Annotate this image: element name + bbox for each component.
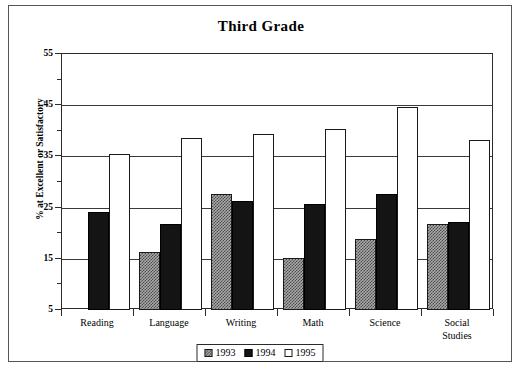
x-axis-label-reading: Reading (61, 316, 133, 329)
legend-label-1994: 1994 (256, 347, 276, 358)
x-axis-label-social-studies: Social Studies (421, 316, 493, 342)
chart-legend: 1993 1994 1995 (197, 344, 324, 362)
x-axis-group-tick (421, 309, 422, 316)
y-axis-tick-label: 35 (27, 150, 53, 160)
legend-swatch-1995-icon (285, 349, 293, 357)
bar-math-1993 (283, 258, 304, 310)
legend-item-1993: 1993 (205, 347, 236, 358)
x-axis-group-tick (349, 309, 350, 316)
bar-social-studies-1994 (448, 222, 469, 310)
x-axis-group-tick (277, 309, 278, 316)
legend-label-1995: 1995 (296, 347, 316, 358)
legend-item-1994: 1994 (245, 347, 276, 358)
bar-writing-1995 (253, 134, 274, 310)
y-axis-tick-label: 55 (27, 48, 53, 58)
bar-language-1994 (160, 224, 181, 310)
gridline (62, 105, 492, 106)
page-title: Third Grade (9, 18, 513, 35)
bar-language-1995 (181, 138, 202, 310)
bar-science-1993 (355, 239, 376, 310)
bar-writing-1993 (211, 194, 232, 310)
x-axis-group-tick (133, 309, 134, 316)
y-axis-tick-label: 5 (27, 304, 53, 314)
bar-math-1994 (304, 204, 325, 310)
legend-swatch-1994-icon (245, 349, 253, 357)
legend-swatch-1993-icon (205, 349, 213, 357)
bar-reading-1995 (109, 154, 130, 310)
bar-math-1995 (325, 129, 346, 310)
plot-area (61, 53, 493, 309)
x-axis-label-science: Science (349, 316, 421, 329)
legend-item-1995: 1995 (285, 347, 316, 358)
chart-outer-frame: Third Grade % at Excellent or Satisfacto… (8, 5, 512, 362)
legend-label-1993: 1993 (216, 347, 236, 358)
y-axis-tick-label: 15 (27, 253, 53, 263)
x-axis-label-math: Math (277, 316, 349, 329)
bar-writing-1994 (232, 201, 253, 310)
bar-reading-1994 (88, 212, 109, 310)
chart-figure: Third Grade % at Excellent or Satisfacto… (0, 0, 521, 385)
y-axis-tick-label: 45 (27, 99, 53, 109)
x-axis-group-tick (205, 309, 206, 316)
bar-language-1993 (139, 252, 160, 310)
x-axis-group-tick (61, 309, 62, 316)
bar-social-studies-1995 (469, 140, 490, 310)
bar-science-1995 (397, 107, 418, 310)
x-axis-group-tick (493, 309, 494, 316)
x-axis-label-language: Language (133, 316, 205, 329)
bar-science-1994 (376, 194, 397, 310)
y-axis-tick-label: 25 (27, 202, 53, 212)
x-axis-label-writing: Writing (205, 316, 277, 329)
bar-social-studies-1993 (427, 224, 448, 310)
